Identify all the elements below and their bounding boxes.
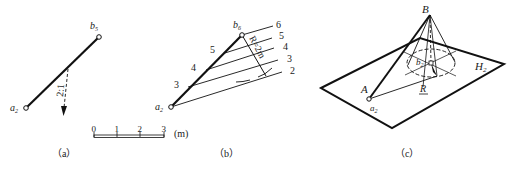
point-b2 xyxy=(429,61,433,65)
figure-c: B A a2 b2 H2 R （c） xyxy=(321,3,504,159)
label-b5: b5 xyxy=(90,20,98,32)
scale-tick-0: 0 xyxy=(92,124,97,134)
point-b5 xyxy=(97,35,102,40)
figure-a: 2:1 b5 a2 0 1 2 3 (m) （a） xyxy=(10,20,188,159)
point-a2 xyxy=(367,97,371,101)
label-a2: a2 xyxy=(155,101,163,113)
line-mark-4: 4 xyxy=(191,62,196,73)
diagram-canvas: 2:1 b5 a2 0 1 2 3 (m) （a） xyxy=(0,0,513,172)
caption-a: （a） xyxy=(52,148,76,159)
scale-bar: 0 1 2 3 (m) xyxy=(92,124,189,140)
point-b6 xyxy=(240,33,245,38)
scale-unit: (m) xyxy=(174,128,188,140)
line-mark-3: 3 xyxy=(174,79,179,90)
plane-h2 xyxy=(321,38,504,128)
label-H2: H2 xyxy=(474,60,487,74)
point-a2 xyxy=(24,106,29,111)
label-A: A xyxy=(360,83,368,95)
label-b6: b6 xyxy=(233,19,241,31)
slope-label: 2:1 xyxy=(54,83,66,97)
contour-label-6: 6 xyxy=(276,19,281,30)
scale-tick-3: 3 xyxy=(162,124,167,134)
point-a2 xyxy=(169,105,174,110)
contour-label-5: 5 xyxy=(279,30,284,41)
line-mark-5: 5 xyxy=(210,44,215,55)
label-B: B xyxy=(422,3,429,15)
radius-label: R=2m xyxy=(247,34,267,60)
caption-c: （c） xyxy=(395,148,419,159)
label-a2: a2 xyxy=(10,102,18,114)
slope-arrow-icon xyxy=(61,106,67,116)
label-R: R xyxy=(419,83,426,94)
arc-contour-2 xyxy=(236,80,250,82)
contour-label-4: 4 xyxy=(283,41,288,52)
label-a2: a2 xyxy=(370,103,378,114)
line-a2-circle xyxy=(369,76,437,99)
caption-b: （b） xyxy=(214,148,239,159)
scale-tick-1: 1 xyxy=(115,124,120,134)
scale-tick-2: 2 xyxy=(138,124,143,134)
contour-6 xyxy=(242,26,273,35)
contour-label-3: 3 xyxy=(287,53,292,64)
contour-label-2: 2 xyxy=(290,65,295,76)
